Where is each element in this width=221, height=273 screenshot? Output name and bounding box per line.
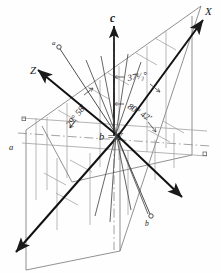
- label-axis-Z: Z: [30, 64, 37, 76]
- node-circle-a-upper: [57, 45, 61, 49]
- node-square-left: [22, 117, 26, 121]
- node-circle-b-lower: [149, 214, 153, 218]
- node-square-right: [203, 152, 207, 156]
- label-axis-c: c: [110, 12, 115, 24]
- label-axis-a-left: a: [9, 142, 13, 152]
- angle-arrow-29-up: [84, 88, 93, 95]
- label-node-b-lower: b: [145, 219, 149, 228]
- label-node-a-upper: a: [52, 39, 56, 47]
- axis-Z-negative: [118, 136, 182, 197]
- label-axis-X: X: [204, 5, 213, 17]
- crystal-axes-svg: X Z c b = Y a a b 37¹⁄₂° 80° 42' 29° 58': [0, 0, 221, 273]
- hatch-marks-upper: [88, 38, 176, 99]
- label-angle-37: 37¹⁄₂°: [126, 70, 149, 84]
- inclined-plane-outline: [42, 16, 192, 182]
- hatch-marks-lower: [44, 160, 92, 205]
- figure-canvas: X Z c b = Y a a b 37¹⁄₂° 80° 42' 29° 58': [0, 0, 221, 273]
- label-origin-b-equals-Y: b = Y: [99, 131, 124, 142]
